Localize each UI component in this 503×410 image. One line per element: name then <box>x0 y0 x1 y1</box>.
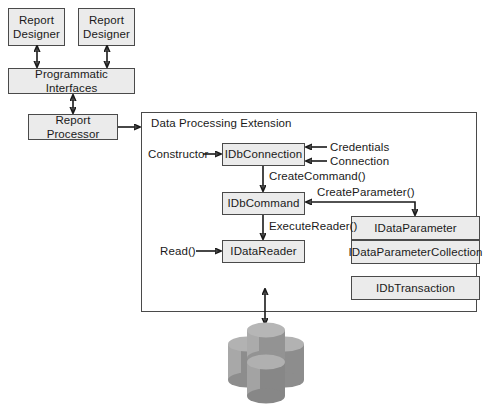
idatareader-label: IDataReader <box>230 244 296 258</box>
programmatic-interfaces-label: Programmatic Interfaces <box>9 67 134 96</box>
edge-label-read: Read() <box>160 245 196 257</box>
idbcommand-label: IDbCommand <box>228 196 300 210</box>
report-processor-label: Report Processor <box>29 113 117 142</box>
idbtransaction-label: IDbTransaction <box>376 281 455 295</box>
node-programmatic-interfaces[interactable]: Programmatic Interfaces <box>8 68 135 94</box>
report-designer-left-line2: Designer <box>13 27 60 41</box>
data-processing-extension-title: Data Processing Extension <box>151 117 292 129</box>
edge-label-execute-reader: ExecuteReader() <box>269 220 357 232</box>
node-report-processor[interactable]: Report Processor <box>28 114 118 140</box>
node-idbcommand[interactable]: IDbCommand <box>222 192 305 215</box>
edge-label-connection: Connection <box>330 155 389 167</box>
report-designer-right-line2: Designer <box>83 27 130 41</box>
node-idatareader[interactable]: IDataReader <box>222 240 305 263</box>
cylinder-front-center <box>247 355 285 404</box>
report-designer-left-line1: Report <box>19 13 54 27</box>
edge-label-constructor: Constructor <box>148 148 209 160</box>
node-idbtransaction[interactable]: IDbTransaction <box>351 276 480 300</box>
edge-label-credentials: Credentials <box>330 141 389 153</box>
idbconnection-label: IDbConnection <box>225 147 302 161</box>
idataparametercollection-label: IDataParameterCollection <box>348 245 482 259</box>
node-idbconnection[interactable]: IDbConnection <box>222 143 305 166</box>
edge-label-create-parameter: CreateParameter() <box>317 186 415 198</box>
node-idataparameter[interactable]: IDataParameter <box>351 216 480 240</box>
edge-label-create-command: CreateCommand() <box>269 170 366 182</box>
idataparameter-label: IDataParameter <box>374 221 457 235</box>
diagram-canvas: Report Designer Report Designer Programm… <box>0 0 503 410</box>
node-report-designer-left[interactable]: Report Designer <box>8 8 65 46</box>
node-idataparametercollection[interactable]: IDataParameterCollection <box>351 240 480 264</box>
database-cluster-icon <box>216 318 316 406</box>
report-designer-right-line1: Report <box>89 13 124 27</box>
node-report-designer-right[interactable]: Report Designer <box>78 8 135 46</box>
